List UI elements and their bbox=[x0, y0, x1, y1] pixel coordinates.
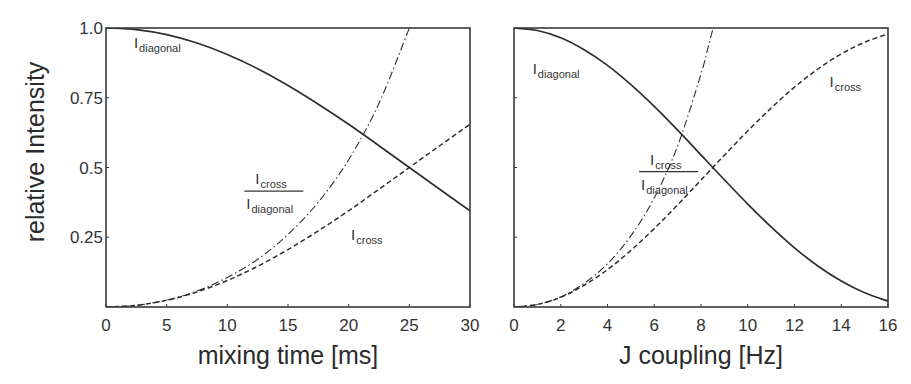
curve-label-text: Idiagonal bbox=[641, 176, 688, 196]
x-tick-label: 14 bbox=[832, 316, 851, 335]
curves bbox=[106, 28, 470, 307]
panel-j-coupling: 0246810121416 J coupling [Hz] IdiagonalI… bbox=[509, 28, 897, 369]
x-tick-label: 25 bbox=[400, 316, 419, 335]
y-tick-label: 0.5 bbox=[79, 159, 103, 178]
x-tick-label: 8 bbox=[696, 316, 705, 335]
x-ticks: 051015202530 bbox=[101, 304, 479, 335]
x-tick-label: 0 bbox=[101, 316, 110, 335]
y-tick-label: 0.75 bbox=[70, 89, 103, 108]
x-tick-label: 5 bbox=[162, 316, 171, 335]
curve-labels: IdiagonalIcrossIcrossIdiagonal bbox=[134, 34, 383, 247]
x-tick-label: 12 bbox=[785, 316, 804, 335]
series-dashed bbox=[106, 124, 470, 307]
axes-frame bbox=[106, 28, 470, 307]
curve-label-text: Icross bbox=[351, 226, 383, 246]
x-axis-title: J coupling [Hz] bbox=[619, 341, 783, 369]
curve-label-text: Icross bbox=[830, 73, 862, 93]
y-tick-label: 1.0 bbox=[79, 19, 103, 38]
x-tick-label: 4 bbox=[603, 316, 612, 335]
x-tick-label: 10 bbox=[218, 316, 237, 335]
y-ticks: 0.250.50.751.0 bbox=[70, 19, 109, 247]
x-tick-label: 20 bbox=[339, 316, 358, 335]
curve-label-text: Icross bbox=[255, 170, 287, 190]
x-axis-title: mixing time [ms] bbox=[198, 341, 379, 369]
y-axis-title: relative Intensity bbox=[21, 61, 49, 242]
series-solid bbox=[106, 28, 470, 211]
y-tick-label: 0.25 bbox=[70, 228, 103, 247]
x-tick-label: 15 bbox=[279, 316, 298, 335]
curve-label-text: Icross bbox=[650, 151, 682, 171]
panel-mixing-time: 051015202530 0.250.50.751.0 mixing time … bbox=[70, 19, 480, 369]
figure: relative Intensity 051015202530 0.250.50… bbox=[0, 0, 911, 384]
series-dashdot bbox=[106, 28, 409, 307]
x-tick-label: 0 bbox=[509, 316, 518, 335]
x-tick-label: 10 bbox=[738, 316, 757, 335]
x-tick-label: 6 bbox=[650, 316, 659, 335]
x-ticks: 0246810121416 bbox=[509, 304, 897, 335]
curve-label-text: Idiagonal bbox=[533, 60, 580, 80]
curve-labels: IdiagonalIcrossIcrossIdiagonal bbox=[533, 60, 862, 196]
x-tick-label: 30 bbox=[461, 316, 480, 335]
x-tick-label: 16 bbox=[879, 316, 898, 335]
curve-label-text: Idiagonal bbox=[246, 195, 293, 215]
x-tick-label: 2 bbox=[556, 316, 565, 335]
